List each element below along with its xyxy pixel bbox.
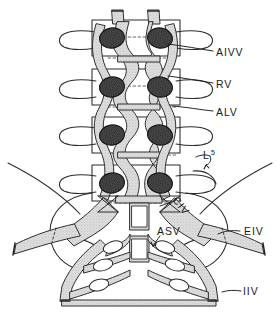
label-asv: ASV — [157, 225, 181, 237]
label-l5-subscript: 5 — [211, 149, 215, 156]
anatomical-figure: AIVV RV ALV L 5 CIV ASV EIV IIV — [0, 0, 279, 315]
label-iiv: IIV — [243, 285, 259, 297]
label-eiv: EIV — [244, 225, 264, 237]
label-l5-letter: L — [203, 149, 210, 161]
label-alv: ALV — [216, 106, 238, 118]
vertebral-venous-plexus-svg: AIVV RV ALV L 5 CIV ASV EIV IIV — [0, 0, 279, 315]
label-rv: RV — [216, 78, 232, 90]
label-aivv: AIVV — [216, 46, 244, 58]
